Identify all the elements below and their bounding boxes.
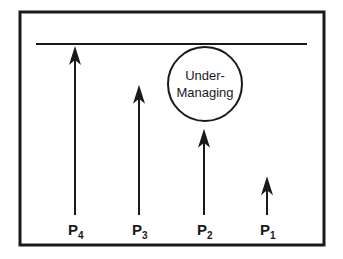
arrow-p1: P1 <box>260 176 276 241</box>
arrow-p3: P3 <box>132 85 148 241</box>
under-managing-circle: Under- Managing <box>168 47 242 121</box>
circle-label-line1: Under- <box>185 68 225 83</box>
frame-border <box>20 12 324 245</box>
arrow-label-p3: P3 <box>132 221 148 241</box>
arrow-label-p1: P1 <box>260 221 276 241</box>
diagram-canvas: Under- Managing P4P3P2P1 <box>0 0 343 259</box>
arrow-label-p4: P4 <box>68 221 84 241</box>
arrow-p4: P4 <box>68 46 84 241</box>
arrow-label-p2: P2 <box>197 221 213 241</box>
arrow-p2: P2 <box>197 129 213 241</box>
circle-label-line2: Managing <box>176 85 233 100</box>
